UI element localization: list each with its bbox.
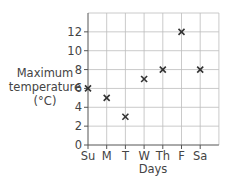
y-tick-label: 2 bbox=[75, 119, 82, 133]
chart-axes bbox=[88, 13, 219, 145]
y-tick-label: 12 bbox=[67, 25, 82, 39]
x-tick-label: Sa bbox=[193, 149, 207, 163]
x-tick-label: M bbox=[102, 149, 112, 163]
x-tick-label: Su bbox=[81, 149, 96, 163]
y-tick-label: 4 bbox=[75, 100, 82, 114]
y-tick-label: 10 bbox=[67, 44, 82, 58]
scatter-chart: 024681012 SuMTWThFSa Days bbox=[0, 0, 230, 182]
y-axis-ticks: 024681012 bbox=[67, 25, 88, 152]
y-tick-label: 6 bbox=[75, 81, 82, 95]
x-tick-label: W bbox=[138, 149, 149, 163]
x-axis-ticks: SuMTWThFSa bbox=[81, 145, 208, 163]
x-axis-label: Days bbox=[139, 162, 168, 176]
x-tick-label: Th bbox=[155, 149, 170, 163]
chart-grid bbox=[88, 13, 219, 145]
y-tick-label: 8 bbox=[75, 63, 82, 77]
x-tick-label: T bbox=[121, 149, 130, 163]
x-tick-label: F bbox=[178, 149, 185, 163]
